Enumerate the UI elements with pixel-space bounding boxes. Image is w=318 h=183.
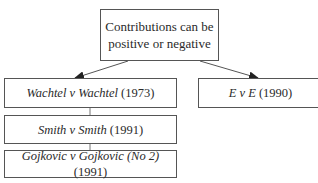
arrow-root-to-eve <box>200 61 258 78</box>
case-year: (1991) <box>74 165 107 179</box>
node-e-v-e: E v E (1990) <box>198 78 318 108</box>
case-name: Smith v Smith <box>38 123 107 137</box>
node-wachtel-v-wachtel: Wachtel v Wachtel (1973) <box>4 78 177 108</box>
node-smith-v-smith: Smith v Smith (1991) <box>4 115 177 144</box>
root-node-contributions: Contributions can be positive or negativ… <box>100 9 219 61</box>
root-node-line2: positive or negative <box>105 35 213 52</box>
arrow-root-to-wachtel <box>75 61 128 78</box>
case-name: Gojkovic v Gojkovic (No 2) <box>22 149 159 163</box>
case-name: Wachtel v Wachtel <box>27 86 118 100</box>
root-node-line1: Contributions can be <box>105 18 213 35</box>
case-year: (1991) <box>107 123 143 137</box>
case-year: (1973) <box>118 86 154 100</box>
node-gojkovic-v-gojkovic: Gojkovic v Gojkovic (No 2) (1991) <box>4 150 177 178</box>
case-year: (1990) <box>256 86 292 100</box>
case-name: E v E <box>229 86 256 100</box>
